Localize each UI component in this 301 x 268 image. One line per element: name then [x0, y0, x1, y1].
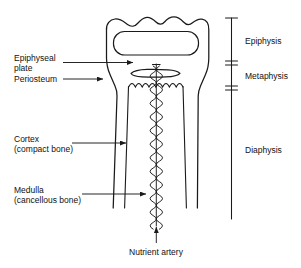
label-medulla-line1: Medulla [14, 185, 81, 195]
bone-anatomy-diagram: Epiphyseal plate Periosteum Cortex (comp… [0, 0, 301, 268]
label-medulla: Medulla (cancellous bone) [14, 185, 81, 205]
nutrient-artery-vessel [150, 64, 162, 229]
label-periosteum-line1: Periosteum [14, 74, 57, 84]
leader-lines-left [63, 63, 146, 195]
label-epiphyseal-plate-line2: plate [14, 63, 56, 73]
label-epiphysis: Epiphysis [245, 36, 281, 46]
label-cortex-line1: Cortex [14, 134, 73, 144]
label-cortex: Cortex (compact bone) [14, 134, 73, 154]
label-epiphyseal-plate-line1: Epiphyseal [14, 53, 56, 63]
label-epiphyseal-plate: Epiphyseal plate [14, 53, 56, 73]
region-bracket [226, 18, 238, 219]
label-nutrient-artery: Nutrient artery [106, 247, 206, 257]
epiphyseal-cavity-outline [114, 32, 199, 56]
label-cortex-line2: (compact bone) [14, 144, 73, 154]
label-metaphysis: Metaphysis [245, 71, 288, 81]
label-periosteum: Periosteum [14, 74, 57, 84]
label-diaphysis: Diaphysis [245, 145, 282, 155]
label-medulla-line2: (cancellous bone) [14, 195, 81, 205]
